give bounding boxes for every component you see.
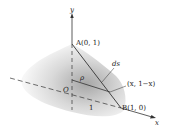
general-point-label: (x, 1−x): [127, 80, 155, 88]
unit-length-label: 1: [89, 104, 93, 112]
radius-label: ρ: [79, 74, 85, 82]
arc-length-label: ds: [112, 60, 120, 68]
point-a-label: A(0, 1): [75, 39, 100, 47]
point-b-label: B(1, 0): [122, 104, 146, 112]
x-axis-arrow-icon: [150, 115, 156, 119]
y-axis-label: y: [69, 6, 75, 14]
origin-label: O: [63, 86, 69, 94]
cone-diagram: y x A(0, 1) B(1, 0) O (x, 1−x) ρ ds 1: [0, 0, 173, 135]
x-axis-label: x: [155, 119, 159, 127]
